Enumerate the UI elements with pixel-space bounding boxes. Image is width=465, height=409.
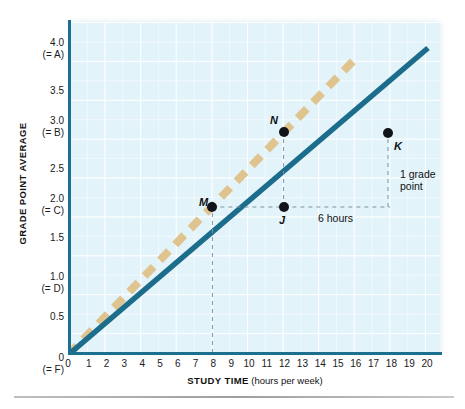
y-tick-2.5: 2.5: [30, 163, 64, 174]
chart-lines-svg: [70, 22, 440, 353]
x-axis-title: STUDY TIME (hours per week): [68, 375, 442, 386]
x-axis-title-units: (hours per week): [249, 375, 323, 386]
plot-area: M N J K 1 grade point 6 hours: [70, 22, 440, 353]
data-point-k[interactable]: [383, 128, 393, 138]
y-tick-0.5: 0.5: [30, 311, 64, 322]
y-tick-3.0-letter: (= B): [30, 127, 64, 138]
x-axis-line: [68, 352, 442, 355]
y-tick-2.0: 2.0: [30, 193, 64, 204]
y-tick-4.0-letter: (= A): [30, 49, 64, 60]
data-point-m-label: M: [199, 196, 208, 208]
x-tick-20: 20: [417, 358, 437, 369]
x-tick-0: 0: [58, 358, 78, 369]
chart-figure: M N J K 1 grade point 6 hours 4.0 (= A) …: [0, 0, 465, 409]
x-axis-title-bold: STUDY TIME: [187, 375, 248, 386]
y-axis-line: [68, 20, 71, 355]
figure-bottom-rule: [14, 396, 454, 398]
y-tick-1.0: 1.0: [30, 271, 64, 282]
run-annotation: 6 hours: [318, 212, 353, 224]
rise-annotation: 1 grade point: [400, 168, 436, 192]
series-lower-line: [70, 48, 428, 353]
y-tick-1.5: 1.5: [30, 232, 64, 243]
y-tick-2.0-letter: (= C): [30, 205, 64, 216]
data-point-n[interactable]: [279, 127, 289, 137]
data-point-j-label: J: [279, 214, 285, 226]
data-point-n-label: N: [270, 114, 278, 126]
data-point-k-label: K: [394, 140, 402, 152]
y-tick-4.0: 4.0: [30, 37, 64, 48]
y-tick-3.5: 3.5: [30, 85, 64, 96]
y-tick-1.0-letter: (= D): [30, 283, 64, 294]
y-tick-3.0: 3.0: [30, 115, 64, 126]
y-axis-title: GRADE POINT AVERAGE: [17, 94, 28, 274]
data-point-j[interactable]: [279, 202, 289, 212]
